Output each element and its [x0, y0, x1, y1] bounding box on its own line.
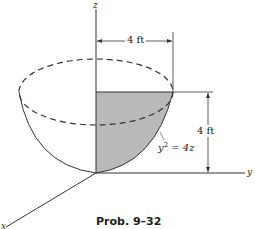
equation-label: y2 = 4z — [158, 142, 195, 153]
z-axis-label: z — [93, 1, 98, 10]
x-axis — [6, 173, 96, 227]
radius-label: 4 ft — [125, 35, 146, 45]
figure-caption: Prob. 9–32 — [96, 215, 161, 228]
y-axis-label: y — [247, 168, 252, 177]
shaded-area — [96, 92, 173, 173]
figure: z y x 4 ft 4 ft y2 = 4z Prob. 9–32 — [0, 0, 255, 229]
x-axis-label: x — [1, 222, 6, 229]
parabola-curve-left — [19, 92, 96, 173]
height-label: 4 ft — [197, 125, 214, 137]
